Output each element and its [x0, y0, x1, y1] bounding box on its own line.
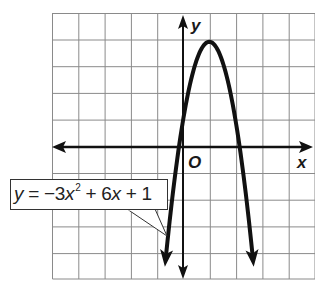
equation-label: y = −3x2 + 6x + 1: [14, 182, 152, 205]
equation-term2-coef: 6: [101, 183, 111, 204]
equation-lhs: y: [14, 183, 23, 204]
origin-label: O: [188, 153, 201, 172]
equation-constant: 1: [142, 183, 152, 204]
equation-op2: +: [126, 183, 137, 204]
x-axis-label: x: [296, 153, 308, 172]
y-axis-label: y: [190, 16, 202, 35]
equation-term1-coef: −3: [44, 183, 65, 204]
equation-equals: =: [28, 183, 39, 204]
equation-term1-exponent: 2: [75, 182, 80, 193]
coordinate-graph: y x O: [0, 0, 315, 290]
equation-op1: +: [86, 183, 97, 204]
equation-term2-var: x: [112, 183, 121, 204]
parabola: [160, 42, 258, 267]
equation-term1-var: x: [65, 183, 74, 204]
callout-pointer: [127, 209, 167, 236]
